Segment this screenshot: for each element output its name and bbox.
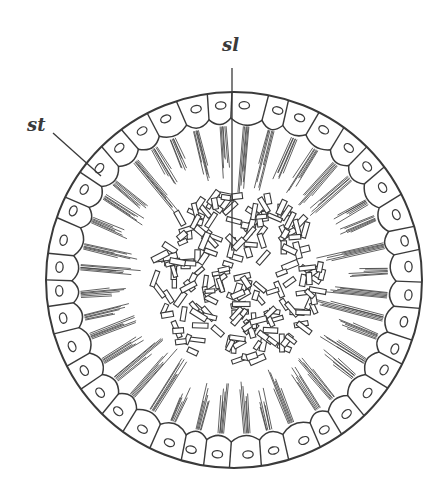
fiber [133,362,163,396]
crystal [267,336,278,346]
cell-nucleus [190,105,202,114]
cell-nucleus [215,102,226,110]
fiber-bundle [254,130,274,191]
cell-nucleus [136,125,149,137]
cell-nucleus [93,162,105,175]
cell-nucleus [361,160,373,173]
fiber-bundle [83,244,137,260]
cell-nucleus [340,408,353,420]
cell-wall [262,95,269,120]
fiber [80,288,109,291]
fiber-bundle [91,217,127,238]
cell-wall [57,218,81,228]
cell-wall [387,332,412,340]
fiber-bundles [80,126,388,434]
cell-wall [306,112,319,134]
cell-nucleus [56,262,64,273]
fiber [103,344,132,361]
cell-nucleus [163,437,175,448]
fiber-bundle [268,370,294,424]
fiber [333,362,353,378]
cell-nucleus [361,387,373,400]
fiber-bundle [196,383,209,430]
fiber [154,374,178,411]
crystal [296,310,311,315]
fiber [154,148,176,184]
crystal [174,210,186,226]
cell-wall [229,442,231,468]
cell-nucleus [160,114,172,125]
fiber [91,324,123,337]
crystal [226,216,241,224]
crystal [256,250,270,265]
fiber [346,201,367,212]
cell-wall [348,395,365,415]
fiber-bundle [152,147,178,185]
cell-wall [204,440,207,466]
fiber [92,222,123,236]
fiber [299,376,319,409]
crystal [205,289,215,294]
cell-wall [379,352,402,364]
cell-wall [150,424,161,448]
fiber [138,160,168,195]
fiber [84,307,121,316]
cell-wall [123,409,137,431]
cell-nucleus [239,101,250,109]
fiber [84,304,129,315]
cell-nucleus [113,142,126,154]
cell-nucleus [400,235,409,247]
central-crystal-mass [150,190,326,366]
fiber [325,354,354,377]
cell-wall [366,375,388,389]
cell-nucleus [112,405,125,417]
fiber-bundle [220,126,229,178]
fiber-bundle [90,316,137,339]
diagram-canvas [0,0,447,495]
cell-nucleus [377,181,389,194]
fiber [275,381,291,423]
fiber [116,182,146,206]
crystal [173,291,187,307]
fiber [364,271,388,272]
cell-nucleus [298,435,310,446]
fiber [105,196,138,217]
cell-wall [48,303,74,307]
fiber [279,139,295,178]
fiber [238,126,244,192]
fiber [342,325,377,338]
crystal [283,276,296,287]
fiber [154,149,175,184]
fiber [322,304,383,320]
cell-wall [54,328,79,334]
cell-wall [147,113,159,136]
fiber [324,335,365,361]
fiber [268,370,289,424]
cell-nucleus [94,386,106,399]
fiber [132,365,159,396]
fiber-bundle [84,304,129,321]
fiber-bundle [114,339,163,382]
crystal [221,194,231,200]
cell-wall [328,412,341,434]
fiber [276,379,293,423]
crystal [244,246,253,258]
fiber [104,344,136,363]
fiber [80,270,131,275]
fiber [346,218,375,230]
cell-wall [389,226,415,231]
cell-layer [46,92,422,468]
fiber-bundle [218,383,228,433]
fiber [295,367,320,408]
fiber [135,349,178,398]
fiber [296,377,317,410]
crystal [175,339,186,345]
fiber [114,184,141,206]
fiber [320,305,383,321]
crystal [187,347,199,356]
crystal [276,269,288,277]
cell-nucleus [78,183,90,196]
crystal [150,270,160,287]
fiber [115,183,146,209]
fiber-bundle [273,137,297,179]
